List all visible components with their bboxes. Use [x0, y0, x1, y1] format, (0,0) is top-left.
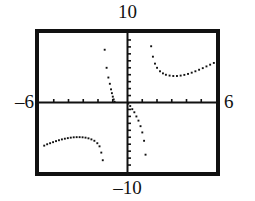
data-point — [113, 98, 115, 100]
data-point — [169, 75, 171, 77]
data-point — [176, 75, 178, 77]
data-point — [198, 69, 200, 71]
data-point — [145, 154, 147, 156]
data-point — [138, 120, 140, 122]
data-point — [67, 137, 69, 139]
data-point — [154, 63, 156, 65]
data-point — [162, 72, 164, 74]
data-point — [110, 88, 112, 90]
data-point — [209, 64, 211, 66]
data-point — [82, 136, 84, 138]
data-point — [100, 152, 102, 154]
data-point — [79, 136, 81, 138]
data-point — [202, 67, 204, 69]
data-point — [152, 56, 154, 58]
data-point — [99, 145, 101, 147]
data-point — [191, 72, 193, 74]
axis-label-xmax: 6 — [224, 92, 252, 111]
data-point — [46, 143, 48, 145]
data-point — [127, 103, 129, 105]
data-point — [150, 45, 152, 47]
data-point — [172, 75, 174, 77]
calculator-screen: 10 –6 6 –10 — [0, 0, 255, 201]
data-point — [70, 137, 72, 139]
data-point — [104, 49, 106, 51]
data-point — [90, 138, 92, 140]
data-point — [52, 141, 54, 143]
data-point — [111, 92, 113, 94]
data-point — [159, 70, 161, 72]
data-point — [133, 111, 135, 113]
data-point — [112, 96, 114, 98]
data-point — [143, 140, 145, 142]
data-point — [187, 73, 189, 75]
data-point — [165, 74, 167, 76]
data-point — [43, 145, 45, 147]
axis-label-xmin: –6 — [2, 92, 34, 111]
data-point — [76, 136, 78, 138]
axis-label-ymin: –10 — [0, 178, 255, 197]
data-point — [93, 140, 95, 142]
plot-viewport-frame — [35, 29, 220, 176]
data-point — [61, 138, 63, 140]
axis-label-ymax: 10 — [0, 2, 255, 21]
function-plot — [39, 33, 216, 172]
data-point — [131, 108, 133, 110]
data-point — [107, 77, 109, 79]
data-point — [85, 137, 87, 139]
curve-branch-middle-right-of-origin — [127, 103, 146, 156]
data-point — [73, 136, 75, 138]
data-point — [135, 116, 137, 118]
data-point — [140, 125, 142, 127]
data-point — [114, 101, 116, 103]
data-point — [206, 65, 208, 67]
data-point — [102, 159, 104, 161]
data-point — [64, 138, 66, 140]
data-point — [156, 67, 158, 69]
data-point — [194, 70, 196, 72]
data-point — [55, 140, 57, 142]
data-point — [129, 105, 131, 107]
data-point — [106, 67, 108, 69]
axes-layer — [39, 33, 216, 172]
data-point — [58, 139, 60, 141]
curve-branch-middle-left-of-asymptote — [104, 49, 116, 103]
data-point — [213, 62, 215, 64]
data-point — [180, 75, 182, 77]
data-point — [183, 74, 185, 76]
data-point — [49, 142, 51, 144]
data-point — [109, 83, 111, 85]
curve-branch-lower-left — [43, 136, 103, 161]
data-point — [141, 131, 143, 133]
data-point — [88, 137, 90, 139]
data-point — [96, 142, 98, 144]
curve-branch-upper-right — [150, 45, 215, 77]
